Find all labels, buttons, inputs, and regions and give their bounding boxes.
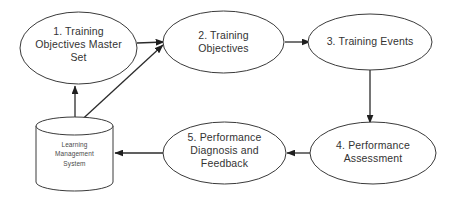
node-2-ellipse[interactable] xyxy=(163,11,284,73)
node-shape-layer xyxy=(20,11,436,191)
node-4-ellipse[interactable] xyxy=(310,122,436,184)
node-1-ellipse[interactable] xyxy=(20,12,137,84)
edge-1-to-2 xyxy=(137,42,164,43)
node-store-cylinder[interactable] xyxy=(36,117,113,191)
diagram-graphics xyxy=(0,0,451,203)
node-5-ellipse[interactable] xyxy=(163,122,286,184)
node-3-ellipse[interactable] xyxy=(308,14,432,70)
diagram-canvas: 1. Training Objectives Master Set 2. Tra… xyxy=(0,0,451,203)
